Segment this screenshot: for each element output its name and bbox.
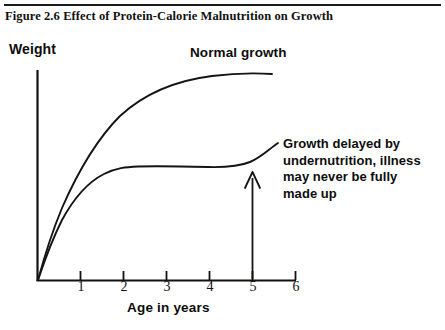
x-tick-label-5: 5 bbox=[245, 279, 261, 295]
x-tick-label-1: 1 bbox=[73, 279, 89, 295]
delayed-growth-curve bbox=[38, 143, 278, 280]
callout-arrow-icon bbox=[245, 172, 260, 279]
x-tick-label-4: 4 bbox=[202, 279, 218, 295]
x-tick-label-3: 3 bbox=[159, 279, 175, 295]
x-tick-label-2: 2 bbox=[116, 279, 132, 295]
x-axis-title: Age in years bbox=[127, 300, 210, 315]
x-tick-label-6: 6 bbox=[288, 279, 304, 295]
normal-growth-curve bbox=[38, 73, 272, 280]
x-axis-ticks bbox=[81, 271, 296, 280]
growth-chart-plot bbox=[0, 0, 445, 330]
figure-container: Figure 2.6 Effect of Protein-Calorie Mal… bbox=[0, 0, 445, 330]
